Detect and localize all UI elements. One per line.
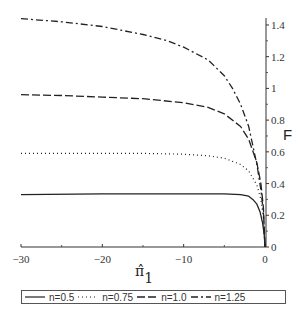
- x-axis-title: π̂1: [135, 263, 153, 286]
- x-tick-label: −10: [175, 253, 193, 265]
- y-tick-label: 1: [271, 82, 277, 94]
- legend-label: n=1.0: [161, 292, 186, 303]
- series-n=1.0: [21, 95, 265, 247]
- x-tick-label: −30: [12, 253, 30, 265]
- legend-item-n05: n=0.5: [25, 292, 74, 303]
- curves: [21, 19, 265, 247]
- legend-item-n125: n=1.25: [191, 292, 246, 303]
- legend-item-n10: n=1.0: [137, 292, 186, 303]
- dashed-line-swatch-icon: [137, 293, 157, 301]
- solid-line-swatch-icon: [25, 293, 45, 301]
- dashdot-line-swatch-icon: [191, 293, 211, 301]
- x-tick-label: −20: [94, 253, 112, 265]
- y-tick-label: 1.2: [271, 51, 285, 63]
- axes: −30−20−10000.20.40.60.811.21.4: [12, 18, 285, 265]
- series-n=1.25: [21, 19, 265, 247]
- legend-label: n=1.25: [215, 292, 246, 303]
- legend: n=0.5 n=0.75 n=1.0 n=1.25: [21, 290, 286, 304]
- series-n=0.75: [21, 153, 265, 247]
- y-tick-label: 0.8: [271, 114, 285, 126]
- legend-item-n075: n=0.75: [78, 292, 133, 303]
- legend-label: n=0.5: [49, 292, 74, 303]
- y-tick-label: 0.4: [271, 178, 285, 190]
- x-tick-label: 0: [262, 253, 268, 265]
- y-tick-label: 0.6: [271, 146, 285, 158]
- y-tick-label: 1.4: [271, 19, 285, 31]
- line-chart: −30−20−10000.20.40.60.811.21.4 F π̂1: [0, 0, 307, 314]
- dotted-line-swatch-icon: [78, 293, 98, 301]
- y-tick-label: 0: [271, 241, 277, 253]
- y-axis-title: F: [283, 126, 292, 143]
- series-n=0.5: [21, 194, 265, 247]
- y-tick-label: 0.2: [271, 209, 285, 221]
- legend-label: n=0.75: [102, 292, 133, 303]
